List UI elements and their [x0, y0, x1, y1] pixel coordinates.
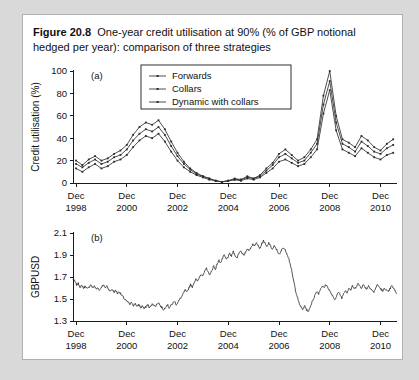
series-marker-a: [265, 170, 267, 172]
series-marker-a: [392, 152, 394, 154]
series-marker-a: [278, 156, 280, 158]
series-marker-a: [139, 133, 141, 135]
series-marker-a: [221, 181, 223, 183]
series-marker-a: [75, 168, 77, 170]
series-marker-a: [310, 156, 312, 158]
series-marker-a: [183, 166, 185, 168]
chart-panel-b: 1.31.51.71.92.1Dec1998Dec2000Dec2002Dec2…: [23, 223, 404, 359]
series-marker-a: [329, 70, 331, 72]
series-marker-a: [177, 160, 179, 162]
x-tick-label-month-a: Dec: [169, 190, 186, 201]
series-marker-a: [196, 172, 198, 174]
series-marker-a: [361, 135, 363, 137]
chart-panel-a: 020406080100Dec1998Dec2000Dec2002Dec2004…: [23, 59, 404, 219]
series-marker-a: [392, 138, 394, 140]
series-marker-a: [380, 153, 382, 155]
series-marker-a: [145, 135, 147, 137]
y-tick-label-b: 2.1: [54, 227, 67, 238]
x-tick-label-year-b: 2004: [218, 340, 239, 351]
axis-lines-b: [73, 232, 397, 321]
series-marker-a: [120, 154, 122, 156]
series-marker-a: [151, 131, 153, 133]
series-marker-a: [101, 160, 103, 162]
series-marker-a: [291, 157, 293, 159]
series-marker-a: [265, 172, 267, 174]
series-marker-a: [323, 104, 325, 106]
series-marker-a: [113, 161, 115, 163]
series-marker-a: [367, 145, 369, 147]
x-tick-label-month-a: Dec: [118, 190, 135, 201]
series-marker-a: [291, 162, 293, 164]
gbpusd-chart: 1.31.51.71.92.1Dec1998Dec2000Dec2002Dec2…: [23, 223, 404, 359]
series-marker-a: [297, 162, 299, 164]
series-marker-a: [380, 159, 382, 161]
figure-label: Figure 20.8: [33, 26, 91, 38]
series-marker-a: [354, 155, 356, 157]
x-tick-label-month-b: Dec: [118, 328, 135, 339]
x-tick-label-year-b: 2002: [167, 340, 188, 351]
series-marker-a: [113, 156, 115, 158]
series-marker-a: [164, 141, 166, 143]
series-marker-a: [164, 128, 166, 130]
series-marker-a: [94, 163, 96, 165]
x-tick-label-month-b: Dec: [169, 328, 186, 339]
x-tick-label-month-a: Dec: [68, 190, 85, 201]
series-marker-a: [107, 165, 109, 167]
series-marker-a: [297, 165, 299, 167]
x-tick-label-year-b: 2010: [370, 340, 391, 351]
series-marker-a: [278, 161, 280, 163]
legend-label: Dynamic with collars: [172, 96, 259, 107]
y-tick-label-a: 20: [56, 155, 67, 166]
y-axis-title-b: GBPUSD: [30, 256, 41, 298]
series-marker-a: [272, 162, 274, 164]
series-marker-a: [284, 149, 286, 151]
series-marker-a: [170, 151, 172, 153]
series-marker-a: [120, 150, 122, 152]
figure-container: Figure 20.8 One-year credit utilisation …: [22, 14, 403, 360]
series-marker-a: [208, 178, 210, 180]
x-tick-label-month-b: Dec: [271, 328, 288, 339]
series-marker-a: [88, 162, 90, 164]
legend-marker: [157, 88, 159, 90]
series-marker-a: [81, 164, 83, 166]
series-marker-a: [354, 146, 356, 148]
x-tick-label-year-b: 2000: [116, 340, 137, 351]
series-marker-a: [373, 156, 375, 158]
series-marker-a: [348, 142, 350, 144]
series-marker-a: [234, 178, 236, 180]
x-tick-label-month-b: Dec: [372, 328, 389, 339]
series-marker-a: [132, 140, 134, 142]
series-marker-a: [272, 164, 274, 166]
y-axis-title-a: Credit utilisation (%): [30, 82, 41, 171]
series-marker-a: [189, 171, 191, 173]
series-marker-a: [126, 149, 128, 151]
series-marker-a: [183, 163, 185, 165]
series-marker-a: [291, 154, 293, 156]
credit-utilisation-chart: 020406080100Dec1998Dec2000Dec2002Dec2004…: [23, 59, 404, 219]
series-marker-a: [183, 161, 185, 163]
legend-label: Collars: [172, 83, 202, 94]
series-marker-a: [386, 143, 388, 145]
x-tick-label-month-a: Dec: [271, 190, 288, 201]
series-marker-a: [367, 152, 369, 154]
series-marker-a: [158, 126, 160, 128]
series-marker-a: [94, 155, 96, 157]
series-marker-a: [158, 119, 160, 121]
x-tick-label-month-a: Dec: [321, 190, 338, 201]
series-marker-a: [342, 149, 344, 151]
series-marker-a: [335, 122, 337, 124]
series-marker-a: [113, 153, 115, 155]
series-marker-a: [335, 115, 337, 117]
series-marker-a: [342, 143, 344, 145]
series-marker-a: [170, 145, 172, 147]
x-tick-label-year-a: 2006: [268, 202, 289, 213]
legend-marker: [157, 101, 159, 103]
x-tick-label-year-b: 2006: [268, 340, 289, 351]
series-marker-a: [81, 166, 83, 168]
series-marker-a: [126, 144, 128, 146]
series-marker-a: [373, 146, 375, 148]
series-marker-a: [88, 159, 90, 161]
series-marker-a: [151, 124, 153, 126]
series-marker-a: [284, 153, 286, 155]
legend-marker: [157, 75, 159, 77]
